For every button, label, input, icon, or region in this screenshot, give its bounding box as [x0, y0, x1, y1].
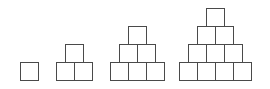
- block-square: [215, 26, 234, 45]
- block-square: [128, 26, 147, 45]
- pyramid-sequence-diagram: [0, 0, 270, 89]
- block-square: [74, 62, 93, 81]
- block-square: [206, 44, 225, 63]
- block-square: [56, 62, 75, 81]
- block-square: [137, 44, 156, 63]
- block-square: [179, 62, 198, 81]
- block-square: [197, 26, 216, 45]
- block-square: [119, 44, 138, 63]
- block-square: [224, 44, 243, 63]
- block-square: [233, 62, 252, 81]
- block-square: [146, 62, 165, 81]
- block-square: [188, 44, 207, 63]
- block-square: [20, 62, 39, 81]
- block-square: [215, 62, 234, 81]
- block-square: [128, 62, 147, 81]
- block-square: [65, 44, 84, 63]
- block-square: [197, 62, 216, 81]
- block-square: [206, 8, 225, 27]
- block-square: [110, 62, 129, 81]
